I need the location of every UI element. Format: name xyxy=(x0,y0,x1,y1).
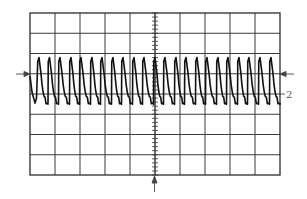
channel-label: 2 xyxy=(286,89,292,100)
right-trigger-arrow-icon xyxy=(280,72,294,77)
oscilloscope-display: 2 xyxy=(0,0,307,199)
bottom-center-arrow-icon xyxy=(152,176,157,192)
left-trigger-arrow-icon xyxy=(16,72,30,77)
channel-2-ground-marker: 2 xyxy=(280,89,292,100)
